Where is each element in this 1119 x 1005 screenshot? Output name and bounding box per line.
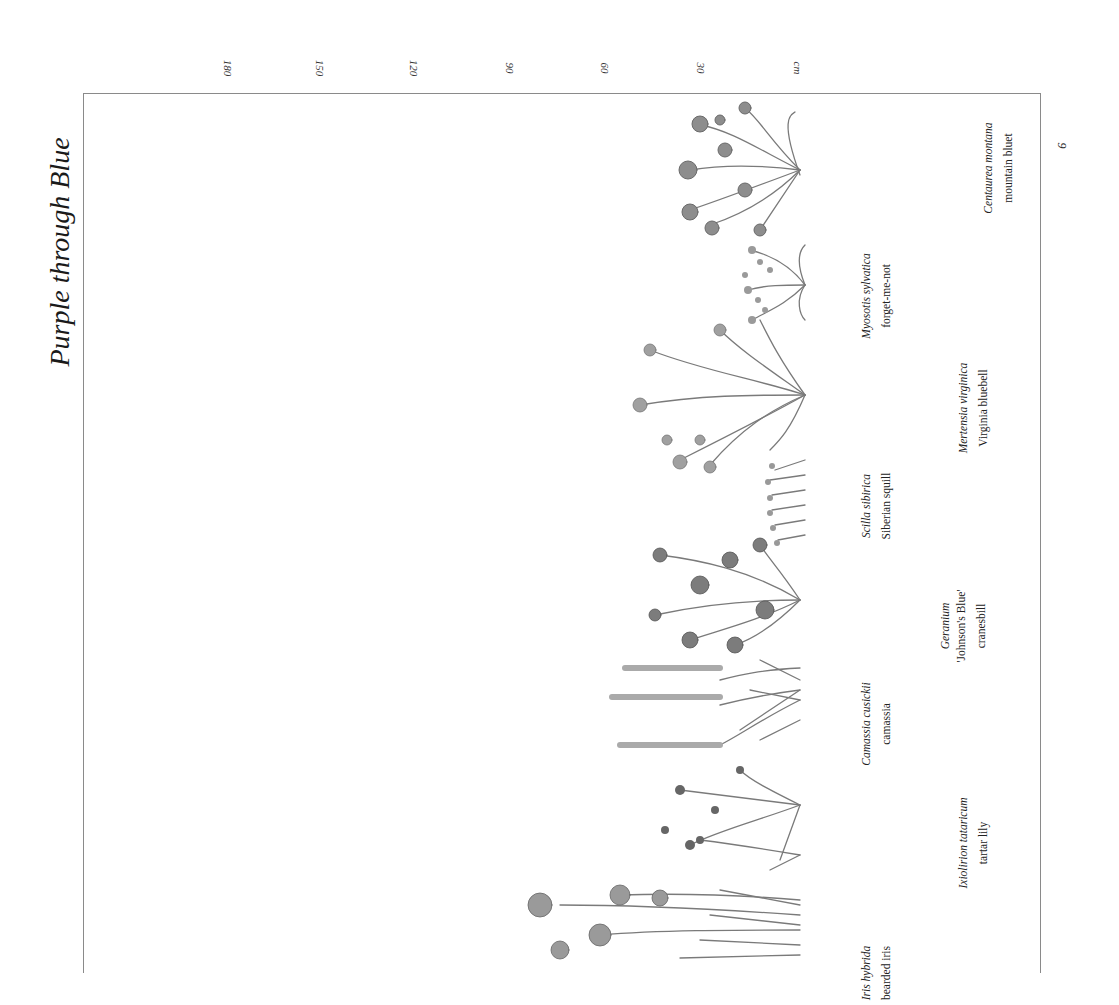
plant-label-ixiolirion: Ixiolirion tataricum tartar lily bbox=[955, 783, 991, 903]
plant-label-myosotis: Myosotis sylvatica forget-me-not bbox=[858, 236, 894, 356]
scientific-name: Mertensia virginica bbox=[955, 348, 971, 468]
scientific-name: Ixiolirion tataricum bbox=[955, 783, 971, 903]
scientific-name: Centaurea montana bbox=[980, 108, 996, 228]
common-name: tartar lily bbox=[975, 783, 991, 903]
plant-label-scilla: Scilla sibirica Siberian squill bbox=[858, 446, 894, 566]
plant-label-geranium: Geranium 'Johnson's Blue' cranesbill bbox=[937, 566, 989, 686]
common-name: cranesbill bbox=[973, 566, 989, 686]
common-name: bearded iris bbox=[878, 913, 894, 1005]
plant-label-centaurea: Centaurea montana mountain bluet bbox=[980, 108, 1016, 228]
scientific-name: Scilla sibirica bbox=[858, 446, 874, 566]
iris-illustration bbox=[560, 890, 800, 958]
myosotis-illustration bbox=[748, 245, 805, 320]
plant-label-mertensia: Mertensia virginica Virginia bluebell bbox=[955, 348, 991, 468]
camassia-illustration bbox=[612, 660, 800, 745]
plant-label-iris: Iris hybrida bearded iris bbox=[858, 913, 894, 1005]
common-name: forget-me-not bbox=[878, 236, 894, 356]
scientific-name: Iris hybrida bbox=[858, 913, 874, 1005]
common-name: Siberian squill bbox=[878, 446, 894, 566]
common-name: camassia bbox=[878, 664, 894, 784]
common-name: mountain bluet bbox=[1000, 108, 1016, 228]
scientific-name: Camassia cusickii bbox=[858, 664, 874, 784]
common-name: Virginia bluebell bbox=[975, 348, 991, 468]
cultivar-name: 'Johnson's Blue' bbox=[953, 566, 969, 686]
scientific-name: Geranium bbox=[937, 566, 953, 686]
scientific-name: Myosotis sylvatica bbox=[858, 236, 874, 356]
plant-label-camassia: Camassia cusickii camassia bbox=[858, 664, 894, 784]
page-number: 9 bbox=[1054, 143, 1069, 149]
ixiolirion-illustration bbox=[680, 770, 800, 870]
